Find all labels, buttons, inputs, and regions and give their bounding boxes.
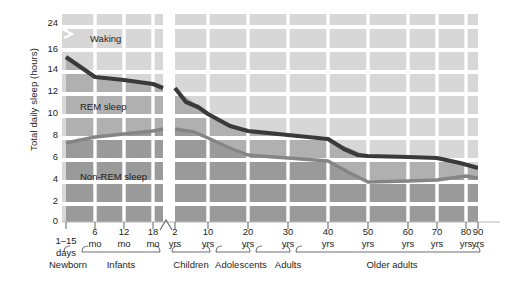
y-tick-24: 24 [36,18,58,28]
y-tick-12: 12 [36,86,58,96]
y-tick-8: 8 [36,130,58,140]
x-tick-10-unit: yrs [392,238,424,249]
group-label-newborn: Newborn [38,259,98,270]
y-tick-10: 10 [36,108,58,118]
x-tick-1-unit: mo [79,238,111,249]
x-tick-13-unit: yrs [462,238,494,249]
x-tick-4-unit: yrs [159,238,191,249]
x-tick-9-num: 50 [352,226,384,237]
x-tick-7-unit: yrs [272,238,304,249]
band-label-non-rem: Non-REM sleep [80,171,147,182]
x-tick-6-num: 20 [232,226,264,237]
x-tick-2-unit: mo [108,238,140,249]
x-tick-10-num: 60 [392,226,424,237]
y-axis-title: Total daily sleep (hours) [28,5,39,195]
x-tick-11-num: 70 [421,226,453,237]
y-tick-6: 6 [36,152,58,162]
plot-area: Waking REM sleep Non-REM sleep [62,14,478,222]
group-label-infants: Infants [91,259,151,270]
group-label-adults: Adults [258,259,318,270]
x-tick-7-num: 30 [272,226,304,237]
band-label-rem: REM sleep [80,101,126,112]
x-tick-6-unit: yrs [232,238,264,249]
x-tick-9-unit: yrs [352,238,384,249]
x-tick-1-num: 6 [79,226,111,237]
sleep-chart-figure: Total daily sleep (hours) 24 16 14 12 10… [0,0,512,285]
y-tick-2: 2 [36,196,58,206]
y-tick-14: 14 [36,64,58,74]
x-tick-11-unit: yrs [421,238,453,249]
y-tick-4: 4 [36,174,58,184]
x-tick-13-num: 90 [462,226,494,237]
plot-svg [62,14,478,222]
x-tick-5-unit: yrs [192,238,224,249]
x-tick-8-unit: yrs [312,238,344,249]
x-tick-5-num: 10 [192,226,224,237]
band-label-waking: Waking [90,33,121,44]
x-tick-8-num: 40 [312,226,344,237]
x-tick-2-num: 12 [108,226,140,237]
group-label-older-adults: Older adults [352,259,432,270]
x-axis-break-gap [163,14,175,222]
x-tick-4-num: 2 [159,226,191,237]
y-tick-16: 16 [36,44,58,54]
y-axis-break-icon [60,24,74,40]
